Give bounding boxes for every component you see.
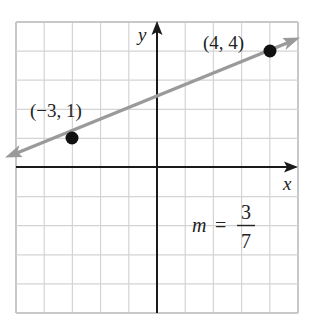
point-label: (−3, 1) [30,100,82,122]
point-label: (4, 4) [203,32,244,54]
plotted-line [5,38,300,158]
slope-annotation: m = 3 7 [192,201,255,252]
slope-equals: = [215,214,226,236]
slope-numerator: 3 [241,201,251,223]
coordinate-plane: x y (−3, 1) (4, 4) m = 3 7 [0,0,312,320]
y-axis-label: y [136,24,147,45]
slope-symbol: m [192,214,206,236]
point-marker [66,132,79,145]
x-axis-label: x [282,173,292,194]
point-4-4: (4, 4) [203,32,277,58]
point-marker [264,45,277,58]
slope-denominator: 7 [241,230,251,252]
